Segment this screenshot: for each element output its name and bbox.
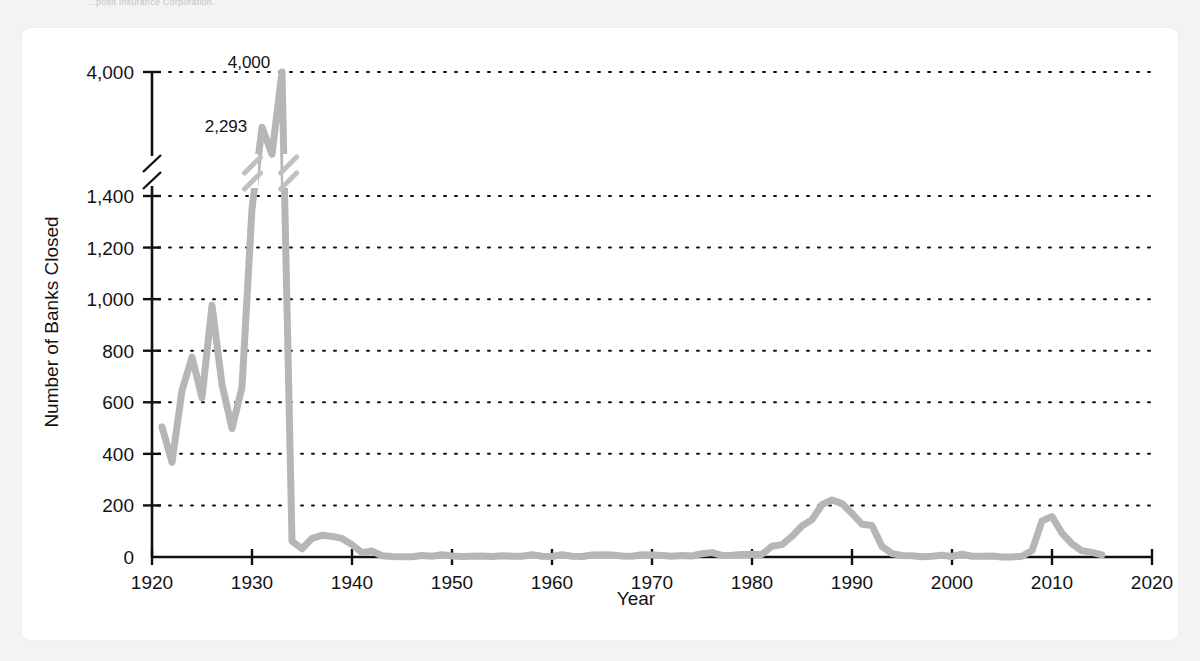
x-tick-label: 1980 [731,572,773,593]
annotation-peak-2293: 2,293 [205,117,248,136]
data-line-banks-closed [162,72,1102,557]
x-tick-label: 1920 [131,572,173,593]
y-axis-break-icon [143,155,161,189]
y-tick-label: 4,000 [86,62,134,83]
x-tick-label: 2010 [1031,572,1073,593]
x-tick-label: 2000 [931,572,973,593]
y-axis-title: Number of Banks Closed [41,216,62,427]
x-tick-label: 1940 [331,572,373,593]
chart-figure: 02004006008001,0001,2001,4004,000 192019… [0,0,1200,661]
series-break-marks [245,154,297,189]
x-tick-label: 1960 [531,572,573,593]
y-tick-labels-group: 02004006008001,0001,2001,4004,000 [86,62,134,568]
annotation-peak-4000: 4,000 [228,53,271,72]
x-tick-label: 1950 [431,572,473,593]
y-tick-label: 0 [123,547,134,568]
chart-svg: 02004006008001,0001,2001,4004,000 192019… [0,0,1200,661]
x-tick-label: 1930 [231,572,273,593]
y-tick-label: 600 [102,392,134,413]
x-tick-label: 2020 [1131,572,1173,593]
y-tick-label: 1,000 [86,289,134,310]
y-tick-label: 200 [102,495,134,516]
y-tick-label: 400 [102,444,134,465]
x-axis-title: Year [617,588,656,609]
y-tick-label: 1,200 [86,238,134,259]
y-tick-label: 1,400 [86,186,134,207]
gridlines-group [158,72,1152,505]
y-tick-label: 800 [102,341,134,362]
x-tick-label: 1990 [831,572,873,593]
